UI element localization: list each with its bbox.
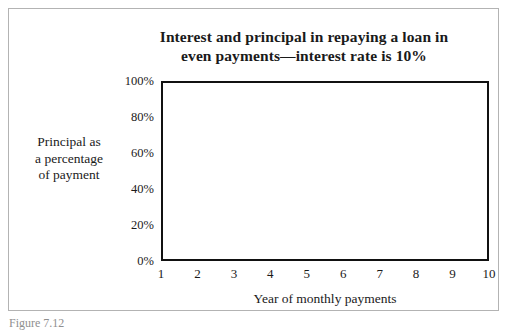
chart-title-line-1: Interest and principal in repaying a loa…: [109, 27, 499, 46]
x-axis-title: Year of monthly payments: [161, 291, 489, 307]
principal-series-label: Principal: [369, 192, 435, 212]
x-tick-label: 7: [376, 266, 383, 282]
y-axis-title-line-2: a percentage: [21, 151, 117, 168]
y-tick-label: 60%: [131, 146, 154, 161]
y-axis-title-line-3: of payment: [21, 167, 117, 184]
y-tick-label: 40%: [131, 182, 154, 197]
figure-frame: Interest and principal in repaying a loa…: [8, 8, 499, 311]
principal-area-fill: [161, 88, 489, 261]
x-tick-label: 6: [340, 266, 347, 282]
x-tick-label: 3: [231, 266, 238, 282]
x-tick-label: 9: [449, 266, 456, 282]
y-tick-label: 20%: [131, 218, 154, 233]
x-tick-label: 5: [304, 266, 311, 282]
x-tick-label: 4: [267, 266, 274, 282]
chart-title: Interest and principal in repaying a loa…: [109, 27, 499, 65]
y-tick-label: 80%: [131, 110, 154, 125]
y-axis-title-line-1: Principal as: [21, 134, 117, 151]
plot-area: 0%20%40%60%80%100% 12345678910 Interest …: [161, 81, 489, 261]
chart-title-line-2: even payments—interest rate is 10%: [109, 46, 499, 65]
y-axis-title: Principal as a percentage of payment: [21, 134, 117, 184]
x-tick-label: 1: [158, 266, 165, 282]
y-tick-label: 100%: [125, 74, 154, 89]
y-tick-label: 0%: [137, 254, 154, 269]
x-tick-label: 2: [194, 266, 201, 282]
figure-caption: Figure 7.12: [9, 316, 64, 331]
x-tick-label: 8: [413, 266, 420, 282]
interest-series-label: Interest: [213, 109, 256, 126]
x-tick-label: 10: [483, 266, 496, 282]
chart-plot-svg: [161, 81, 489, 261]
